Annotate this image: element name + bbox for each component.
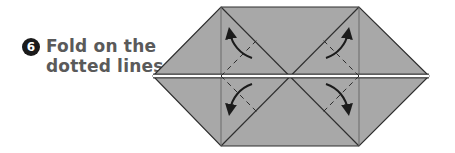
center-fold-line	[153, 74, 429, 78]
origami-fold-diagram	[0, 0, 455, 153]
